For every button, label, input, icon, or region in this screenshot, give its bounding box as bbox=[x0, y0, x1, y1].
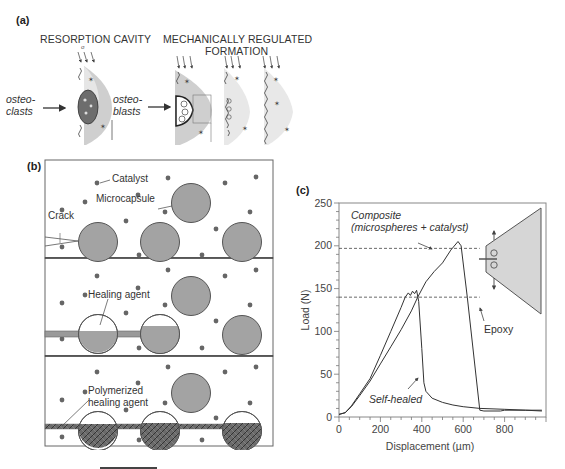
x-tick-label: 200 bbox=[372, 423, 390, 435]
y-tick-label: 150 bbox=[314, 282, 332, 294]
y-tick-label: 100 bbox=[314, 325, 332, 337]
y-tick-label: 0 bbox=[326, 411, 332, 423]
x-axis-label: Displacement (µm) bbox=[386, 440, 474, 452]
composite-line2: (microspheres + catalyst) bbox=[351, 221, 469, 233]
epoxy-annotation: Epoxy bbox=[484, 323, 513, 335]
y-tick-label: 200 bbox=[314, 239, 332, 251]
x-tick-label: 0 bbox=[336, 423, 342, 435]
composite-annotation: Composite (microspheres + catalyst) bbox=[351, 209, 469, 233]
y-tick-label: 50 bbox=[320, 368, 332, 380]
y-tick-label: 250 bbox=[314, 197, 332, 209]
composite-line1: Composite bbox=[351, 209, 469, 221]
self-healed-pointer bbox=[408, 378, 418, 389]
y-axis: 050100150200250 bbox=[314, 197, 339, 423]
y-axis-label: Load (N) bbox=[299, 290, 311, 331]
x-tick-label: 600 bbox=[454, 423, 472, 435]
x-tick-label: 800 bbox=[496, 423, 514, 435]
self-healed-annotation: Self-healed bbox=[369, 393, 422, 405]
x-tick-label: 400 bbox=[413, 423, 431, 435]
epoxy-pointer bbox=[480, 308, 484, 321]
load-displacement-chart: 050100150200250 0200400600800 Displaceme… bbox=[0, 0, 565, 469]
tdcb-specimen-icon bbox=[479, 208, 541, 314]
x-axis: 0200400600800 bbox=[336, 417, 546, 435]
reference-lines bbox=[339, 248, 480, 297]
